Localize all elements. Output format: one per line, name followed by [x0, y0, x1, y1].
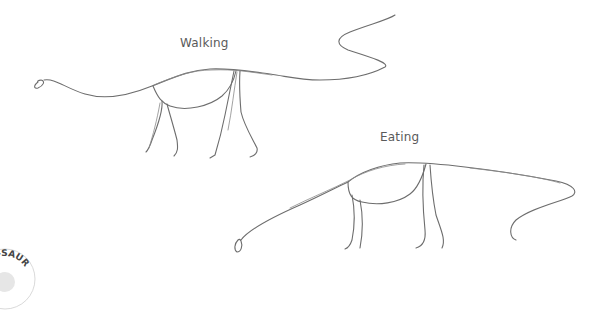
walking-sauropod-sketch: [35, 15, 395, 158]
badge-center: [0, 272, 15, 292]
logo-badge: A-SAUR: [0, 244, 40, 314]
eating-sauropod-sketch: [235, 163, 575, 252]
badge-text: A-SAUR: [0, 248, 31, 269]
